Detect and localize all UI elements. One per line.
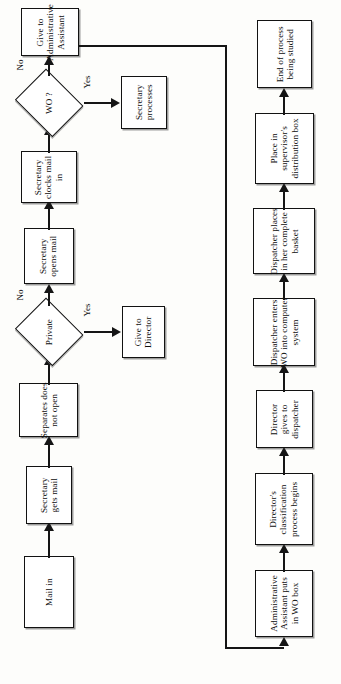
- connector-admin-segment-top: [78, 45, 227, 47]
- node-place-supervisor-label: Place insupervisor'sdistribution box: [269, 118, 300, 178]
- edge-director-gives-to-dispatcher-enters: [283, 370, 285, 392]
- node-give-to-admin-label: Give toAdministrativeAssistant: [35, 4, 66, 61]
- node-secretary-gets-mail[interactable]: Secretarygets mail: [26, 466, 72, 524]
- arrowhead-right: [111, 98, 120, 108]
- node-wo-decision[interactable]: WO ?: [13, 73, 85, 133]
- node-secretary-clocks-label: Secretaryclocks mailin: [34, 155, 65, 198]
- edge-secretary-opens-to-clocks: [48, 206, 50, 230]
- node-give-to-director[interactable]: Give toDirector: [122, 306, 165, 358]
- node-place-supervisor[interactable]: Place insupervisor'sdistribution box: [255, 113, 314, 184]
- edge-wo-yes-to-secretary-processes: [84, 102, 112, 104]
- edge-basket-to-place-supervisor: [283, 189, 285, 210]
- node-give-to-admin[interactable]: Give toAdministrativeAssistant: [21, 8, 79, 56]
- node-director-classify-label: Director'sclassificationprocess begins: [269, 481, 300, 536]
- arrowhead-up: [279, 447, 289, 456]
- node-admin-puts-wo-box-label: AdministrativeAssistant putsin WO box: [269, 575, 300, 632]
- node-end-of-process[interactable]: End of processbeing studied: [257, 20, 312, 88]
- arrowhead-up: [279, 544, 289, 553]
- arrowhead-up: [44, 284, 54, 293]
- node-private-label: Private: [44, 319, 54, 345]
- edge-label-private-yes: Yes: [80, 305, 93, 315]
- arrowhead-right: [112, 327, 121, 337]
- node-secretary-processes-label: Secretaryprocesses: [134, 84, 155, 120]
- node-mail-in[interactable]: Mail in: [24, 556, 74, 628]
- arrowhead-up: [279, 637, 289, 646]
- edge-director-classify-to-director-gives: [283, 453, 285, 475]
- node-director-gives-label: Directorgives todispatcher: [269, 400, 300, 439]
- node-director-classify[interactable]: Director'sclassificationprocess begins: [255, 473, 313, 545]
- node-give-to-director-label: Give toDirector: [133, 316, 154, 347]
- arrowhead-up: [279, 183, 289, 192]
- node-secretary-opens-label: Secretaryopens mail: [39, 235, 60, 276]
- node-mail-in-label: Mail in: [44, 578, 54, 606]
- flowchart-canvas: Mail in Secretarygets mail Separates doe…: [0, 0, 341, 684]
- connector-admin-segment-vertical: [225, 45, 227, 649]
- edge-secretary-gets-mail-to-separates: [48, 442, 50, 468]
- node-secretary-processes[interactable]: Secretaryprocesses: [121, 76, 167, 129]
- node-dispatcher-basket-label: Dispatcher placesin her completebasket: [269, 208, 300, 275]
- edge-private-yes-to-give-to-director: [84, 331, 113, 333]
- node-dispatcher-basket[interactable]: Dispatcher placesin her completebasket: [253, 208, 315, 274]
- arrowhead-up: [279, 88, 289, 97]
- edge-label-private-no: No: [14, 290, 25, 300]
- node-secretary-clocks[interactable]: Secretaryclocks mailin: [21, 151, 77, 203]
- node-private-decision[interactable]: Private: [13, 302, 85, 362]
- node-dispatcher-enters[interactable]: Dispatcher entersWO into computersystem: [253, 298, 315, 366]
- edge-dispatcher-enters-to-basket: [283, 279, 285, 300]
- node-wo-label: WO ?: [44, 92, 54, 114]
- edge-separates-to-private: [48, 362, 50, 385]
- node-director-gives[interactable]: Directorgives todispatcher: [256, 390, 313, 448]
- node-separates[interactable]: Separates doesnot open: [19, 383, 78, 437]
- node-end-of-process-label: End of processbeing studied: [274, 26, 295, 82]
- connector-admin-segment-bottom: [225, 647, 284, 649]
- node-dispatcher-enters-label: Dispatcher entersWO into computersystem: [269, 297, 300, 368]
- node-secretary-gets-mail-label: Secretarygets mail: [39, 477, 60, 513]
- node-separates-label: Separates doesnot open: [38, 382, 59, 438]
- node-admin-puts-wo-box[interactable]: AdministrativeAssistant putsin WO box: [255, 570, 313, 637]
- node-secretary-opens[interactable]: Secretaryopens mail: [24, 228, 74, 284]
- edge-mail-in-to-secretary-gets-mail: [48, 528, 50, 558]
- edge-place-supervisor-to-end: [283, 94, 285, 115]
- edge-label-wo-no: No: [14, 60, 25, 70]
- edge-label-wo-yes: Yes: [80, 77, 93, 87]
- edge-admin-box-to-director-classify: [283, 550, 285, 572]
